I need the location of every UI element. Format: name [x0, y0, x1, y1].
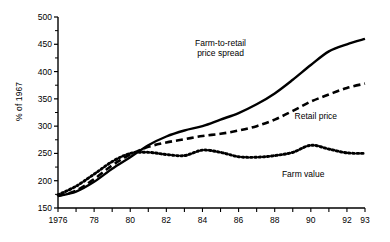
annotation-line-1: Farm value — [282, 169, 325, 180]
x-tick-label: 90 — [298, 215, 324, 225]
x-tick-label: 84 — [189, 215, 215, 225]
series-annotation-retail-price: Retail price — [295, 111, 338, 122]
series-line-retail-price — [58, 84, 365, 196]
y-tick-label: 500 — [26, 12, 52, 22]
series-annotation-farm-value: Farm value — [282, 169, 325, 180]
chart-container: % of 1967 150200250300350400450500 19767… — [0, 0, 390, 242]
x-tick-label: 82 — [153, 215, 179, 225]
annotation-line-1: Retail price — [295, 111, 338, 122]
x-tick-label: 1976 — [45, 215, 71, 225]
x-tick-label: 88 — [262, 215, 288, 225]
series-annotation-farm-to-retail-price-spread: Farm-to-retail price spread — [181, 38, 261, 59]
y-axis-title: % of 1967 — [14, 81, 24, 120]
y-tick-label: 300 — [26, 121, 52, 131]
y-tick-label: 450 — [26, 39, 52, 49]
y-tick-label: 250 — [26, 148, 52, 158]
x-tick-label: 93 — [352, 215, 378, 225]
y-tick-label: 350 — [26, 94, 52, 104]
annotation-line-2: price spread — [181, 48, 261, 59]
annotation-line-1: Farm-to-retail — [181, 38, 261, 49]
y-tick-label: 400 — [26, 67, 52, 77]
x-tick-label: 80 — [117, 215, 143, 225]
y-tick-label: 200 — [26, 176, 52, 186]
y-tick-label: 150 — [26, 203, 52, 213]
x-tick-label: 78 — [81, 215, 107, 225]
x-tick-label: 86 — [226, 215, 252, 225]
